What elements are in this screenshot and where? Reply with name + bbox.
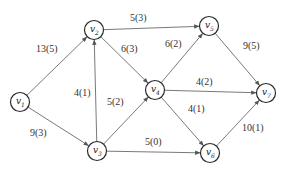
edge-labels-layer: 13(5)9(3)4(1)5(3)6(3)5(2)5(0)6(2)4(2)4(1… bbox=[30, 12, 264, 148]
edge-label-v6-v7: 10(1) bbox=[242, 122, 264, 134]
edge-label-v4-v7: 4(2) bbox=[196, 76, 213, 88]
edge-v2-v5 bbox=[103, 26, 199, 29]
node-v7: v7 bbox=[257, 84, 276, 103]
edges-layer bbox=[27, 26, 260, 152]
edge-label-v2-v4: 6(3) bbox=[121, 43, 138, 55]
edge-v3-v2 bbox=[94, 40, 97, 142]
node-v1: v1 bbox=[11, 93, 30, 112]
edge-label-v3-v2: 4(1) bbox=[74, 87, 91, 99]
edge-label-v3-v6: 5(0) bbox=[145, 136, 162, 148]
node-v6: v6 bbox=[201, 144, 220, 163]
edge-label-v1-v3: 9(3) bbox=[30, 127, 47, 139]
edge-label-v5-v7: 9(5) bbox=[243, 40, 260, 52]
graph-svg: 13(5)9(3)4(1)5(3)6(3)5(2)5(0)6(2)4(2)4(1… bbox=[0, 0, 290, 172]
node-v5: v5 bbox=[200, 17, 219, 36]
edge-label-v2-v5: 5(3) bbox=[130, 12, 147, 24]
node-v2: v2 bbox=[85, 21, 104, 40]
edge-label-v1-v2: 13(5) bbox=[36, 43, 58, 55]
edge-v4-v7 bbox=[165, 90, 257, 92]
edge-label-v3-v4: 5(2) bbox=[107, 96, 124, 108]
nodes-layer: v1v2v5v4v3v6v7 bbox=[11, 17, 276, 163]
node-v3: v3 bbox=[88, 142, 107, 161]
node-v4: v4 bbox=[146, 81, 165, 100]
edge-label-v4-v5: 6(2) bbox=[165, 38, 182, 50]
network-flow-diagram: 13(5)9(3)4(1)5(3)6(3)5(2)5(0)6(2)4(2)4(1… bbox=[0, 0, 290, 172]
edge-label-v4-v6: 4(1) bbox=[188, 103, 205, 115]
edge-v3-v6 bbox=[107, 151, 201, 153]
